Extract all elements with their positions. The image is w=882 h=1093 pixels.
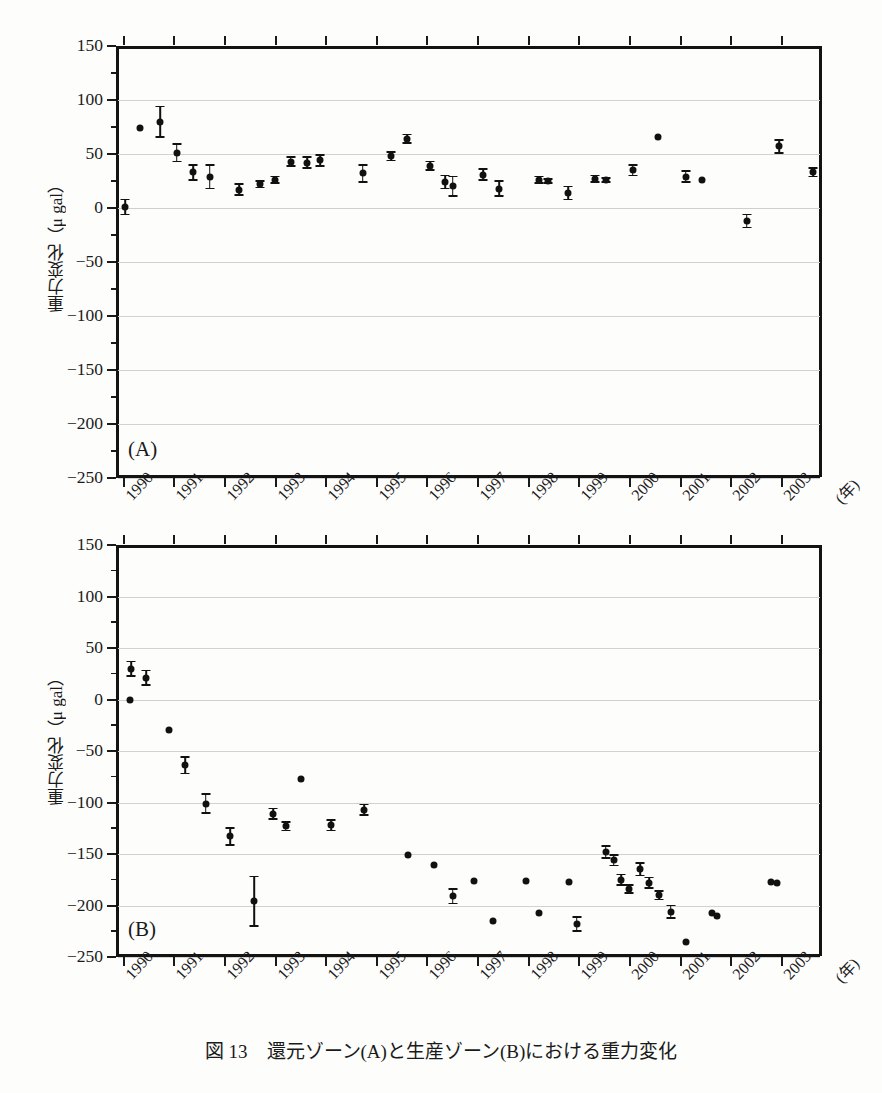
error-bar-cap <box>448 903 457 905</box>
error-bar-cap <box>181 773 190 775</box>
error-bar-cap <box>281 830 290 832</box>
y-gridline <box>118 854 820 855</box>
error-bar-cap <box>250 876 259 878</box>
x-axis-top-tick <box>680 535 682 544</box>
data-point <box>626 886 633 893</box>
error-bar-cap <box>666 905 675 907</box>
x-axis-top-tick <box>123 535 125 544</box>
error-bar-cap <box>666 917 675 919</box>
error-bar-cap <box>360 804 369 806</box>
y-axis-minor-tick <box>111 621 116 623</box>
data-point <box>617 876 624 883</box>
error-bar-cap <box>655 899 664 901</box>
error-bar-cap <box>360 814 369 816</box>
error-bar-cap <box>327 819 336 821</box>
y-axis-tick <box>107 905 116 907</box>
data-point <box>656 892 663 899</box>
x-axis-top-tick <box>730 535 732 544</box>
error-bar-cap <box>250 925 259 927</box>
error-bar-cap <box>225 827 234 829</box>
y-axis-tick <box>107 544 116 546</box>
x-axis-tick <box>629 957 631 966</box>
error-bar-cap <box>127 675 136 677</box>
y-axis-minor-tick <box>111 930 116 932</box>
y-axis-tick <box>107 596 116 598</box>
data-point <box>449 893 456 900</box>
x-axis-top-tick <box>781 535 783 544</box>
data-point <box>714 912 721 919</box>
x-axis-top-tick <box>629 535 631 544</box>
data-point <box>646 879 653 886</box>
error-bar-cap <box>572 916 581 918</box>
data-point <box>535 909 542 916</box>
y-gridline <box>118 751 820 752</box>
error-bar-cap <box>645 877 654 879</box>
x-axis-top-tick <box>578 535 580 544</box>
x-axis-top-tick <box>224 535 226 544</box>
x-axis-tick <box>123 957 125 966</box>
figure-caption: 図 13 還元ゾーン(A)と生産ゾーン(B)における重力変化 <box>0 1036 882 1063</box>
error-bar-cap <box>645 887 654 889</box>
error-bar-cap <box>201 812 210 814</box>
y-axis-label-value: 150 <box>77 536 103 554</box>
y-axis-label-value: −150 <box>67 845 103 863</box>
y-axis-tick <box>107 853 116 855</box>
y-gridline <box>118 597 820 598</box>
x-axis-tick <box>730 957 732 966</box>
data-point <box>773 879 780 886</box>
data-point <box>471 877 478 884</box>
data-point <box>430 862 437 869</box>
x-axis-tick <box>325 957 327 966</box>
y-gridline <box>118 648 820 649</box>
data-point <box>126 696 133 703</box>
data-point <box>143 674 150 681</box>
data-point <box>573 921 580 928</box>
x-axis-top-tick <box>426 535 428 544</box>
x-axis-tick <box>578 957 580 966</box>
x-axis-tick <box>528 957 530 966</box>
error-bar-cap <box>609 865 618 867</box>
error-bar-cap <box>448 888 457 890</box>
data-point <box>405 852 412 859</box>
data-point <box>490 917 497 924</box>
error-bar-cap <box>181 756 190 758</box>
error-bar-cap <box>225 844 234 846</box>
data-point <box>251 898 258 905</box>
x-axis-tick <box>477 957 479 966</box>
x-axis-tick <box>376 957 378 966</box>
y-axis-label-value: −250 <box>67 948 103 966</box>
data-point <box>282 823 289 830</box>
data-point <box>128 665 135 672</box>
error-bar-cap <box>616 874 625 876</box>
y-axis-label-value: 100 <box>77 588 103 606</box>
error-bar-cap <box>127 661 136 663</box>
error-bar-cap <box>572 930 581 932</box>
data-point <box>202 800 209 807</box>
x-axis-unit-year: (年) <box>828 952 864 988</box>
data-point <box>667 908 674 915</box>
data-point <box>270 810 277 817</box>
error-bar-cap <box>636 875 645 877</box>
y-axis-label-value: 0 <box>94 691 103 709</box>
y-axis-tick <box>107 647 116 649</box>
y-axis-tick <box>107 750 116 752</box>
error-bar-cap <box>609 854 618 856</box>
error-bar-cap <box>201 793 210 795</box>
x-axis-tick <box>173 957 175 966</box>
y-axis-label-value: −100 <box>67 794 103 812</box>
x-axis-tick <box>224 957 226 966</box>
y-axis-tick <box>107 956 116 958</box>
data-point <box>682 938 689 945</box>
y-axis-minor-tick <box>111 879 116 881</box>
y-gridline <box>118 906 820 907</box>
y-axis-minor-tick <box>111 724 116 726</box>
x-axis-top-tick <box>325 535 327 544</box>
y-axis-minor-tick <box>111 570 116 572</box>
y-axis-label-value: −50 <box>76 742 103 760</box>
data-point <box>610 857 617 864</box>
error-bar-cap <box>269 818 278 820</box>
data-point <box>637 866 644 873</box>
panel-tag: (B) <box>128 917 156 942</box>
y-axis-title: 重力変化（μ gal） <box>44 669 69 805</box>
error-bar-cap <box>601 857 610 859</box>
